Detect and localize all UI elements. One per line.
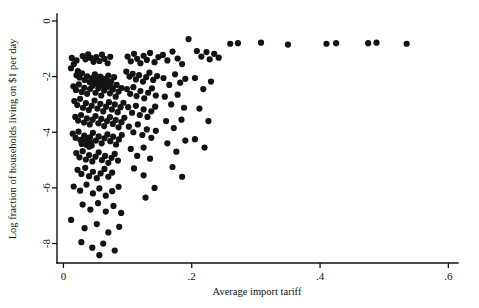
data-point bbox=[323, 41, 329, 47]
data-point bbox=[198, 53, 204, 59]
data-point bbox=[133, 93, 139, 99]
data-point bbox=[96, 252, 102, 258]
data-point bbox=[100, 240, 106, 246]
scatter-plot-figure: 0.2.4.6 0-2-4-6-8 Average import tariff … bbox=[0, 0, 479, 308]
data-point bbox=[74, 102, 80, 108]
data-point bbox=[116, 224, 122, 230]
data-point bbox=[90, 190, 96, 196]
data-point bbox=[80, 201, 86, 207]
data-point bbox=[90, 130, 96, 136]
data-point bbox=[71, 183, 77, 189]
data-point bbox=[148, 135, 154, 141]
x-tick-label: .6 bbox=[444, 270, 453, 282]
data-point bbox=[96, 133, 102, 139]
data-point bbox=[121, 115, 127, 121]
data-point bbox=[81, 85, 87, 91]
data-point bbox=[196, 105, 202, 111]
y-tick-label: -6 bbox=[40, 183, 52, 193]
data-point bbox=[177, 80, 183, 86]
data-point bbox=[120, 100, 126, 106]
x-tick-label: .4 bbox=[316, 270, 325, 282]
data-point bbox=[134, 153, 140, 159]
y-tick-label: 0 bbox=[40, 18, 52, 24]
data-point bbox=[126, 124, 132, 130]
data-point bbox=[129, 110, 135, 116]
data-point bbox=[118, 210, 124, 216]
data-point bbox=[192, 75, 198, 81]
data-point bbox=[160, 75, 166, 81]
data-point bbox=[185, 36, 191, 42]
data-point bbox=[149, 85, 155, 91]
data-point bbox=[179, 174, 185, 180]
data-point bbox=[91, 97, 97, 103]
data-point bbox=[152, 104, 158, 110]
data-point bbox=[119, 132, 125, 138]
data-point bbox=[113, 117, 119, 123]
data-point bbox=[109, 188, 115, 194]
data-point bbox=[139, 132, 145, 138]
data-point bbox=[94, 221, 100, 227]
data-point bbox=[164, 140, 170, 146]
y-axis-title: Log fraction of households living on $1 … bbox=[7, 38, 18, 239]
data-point bbox=[103, 193, 109, 199]
y-tick-label: -4 bbox=[40, 127, 52, 137]
data-point bbox=[154, 73, 160, 79]
y-tick-label: -8 bbox=[40, 238, 52, 248]
data-point bbox=[118, 85, 124, 91]
data-point bbox=[200, 86, 206, 92]
data-point bbox=[78, 239, 84, 245]
data-point bbox=[179, 61, 185, 67]
data-point bbox=[106, 99, 112, 105]
data-point bbox=[147, 156, 153, 162]
x-axis-ticks: 0.2.4.6 bbox=[61, 263, 453, 282]
data-point bbox=[86, 152, 92, 158]
data-point bbox=[153, 128, 159, 134]
data-point bbox=[112, 101, 118, 107]
data-point bbox=[108, 84, 114, 90]
data-point bbox=[92, 113, 98, 119]
data-point bbox=[111, 74, 117, 80]
data-point bbox=[146, 70, 152, 76]
data-point bbox=[160, 52, 166, 58]
data-point bbox=[103, 208, 109, 214]
data-point bbox=[285, 42, 291, 48]
data-point bbox=[141, 106, 147, 112]
data-point bbox=[235, 40, 241, 46]
data-point bbox=[101, 166, 107, 172]
data-point bbox=[404, 41, 410, 47]
data-point bbox=[109, 169, 115, 175]
data-point bbox=[163, 118, 169, 124]
x-tick-label: .2 bbox=[188, 270, 196, 282]
data-point bbox=[97, 101, 103, 107]
data-point bbox=[75, 117, 81, 123]
data-point bbox=[78, 112, 84, 118]
data-point bbox=[115, 158, 121, 164]
data-point bbox=[141, 144, 147, 150]
data-point bbox=[115, 184, 121, 190]
data-point bbox=[128, 58, 134, 64]
data-point bbox=[77, 188, 83, 194]
data-point bbox=[141, 95, 147, 101]
data-point bbox=[181, 105, 187, 111]
data-point bbox=[175, 92, 181, 98]
data-point bbox=[105, 229, 111, 235]
data-point bbox=[131, 165, 137, 171]
data-point bbox=[75, 129, 81, 135]
data-point bbox=[373, 40, 379, 46]
data-point bbox=[84, 115, 90, 121]
data-point bbox=[112, 247, 118, 253]
data-point bbox=[151, 59, 157, 65]
data-point bbox=[203, 49, 209, 55]
data-point bbox=[112, 151, 118, 157]
data-point bbox=[110, 203, 116, 209]
data-point bbox=[98, 116, 104, 122]
data-point bbox=[164, 57, 170, 63]
data-point bbox=[169, 164, 175, 170]
data-point bbox=[77, 96, 83, 102]
data-point bbox=[172, 71, 178, 77]
data-point bbox=[90, 81, 96, 87]
data-point bbox=[141, 172, 147, 178]
data-point bbox=[73, 87, 79, 93]
data-point bbox=[95, 200, 101, 206]
data-point bbox=[144, 57, 150, 63]
